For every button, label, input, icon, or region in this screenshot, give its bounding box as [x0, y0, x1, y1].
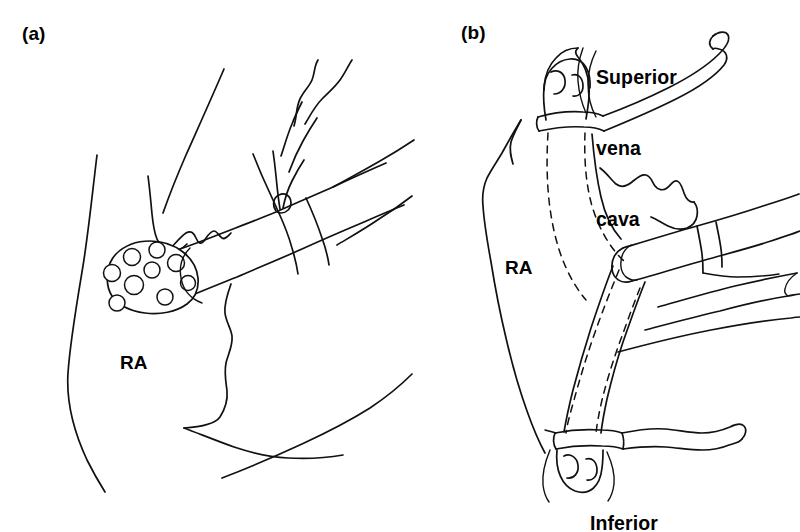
ra-wall-notch-b	[510, 120, 521, 164]
ivc-label-line-1: Inferior	[590, 512, 684, 532]
ligature-band-left-a	[278, 211, 298, 274]
mid-cannula-tie-right-b	[716, 222, 722, 267]
svc-label-line-1: Superior	[596, 66, 677, 90]
bottom-oblique-b	[618, 317, 800, 352]
ra-dome-a	[163, 69, 224, 213]
superior-vena-cava-label: Superior vena cava	[596, 18, 677, 280]
oblique-vessel-lower-a	[337, 196, 412, 245]
ivc-wall-join-b	[545, 430, 556, 433]
ivc-leader-left-b	[543, 450, 550, 502]
svc-lumen-left-b	[551, 71, 565, 94]
ivc-snare-right-cap-b	[622, 433, 624, 449]
patch-hole-8	[109, 295, 125, 311]
panel-b-letter: (b)	[461, 21, 486, 44]
lower-right-vessel-upper-b	[658, 273, 797, 307]
patch-hole-1	[124, 249, 141, 266]
patch-hole-3	[104, 265, 121, 282]
lower-right-vessel-cap-b	[785, 273, 797, 296]
panel-a-letter: (a)	[22, 22, 46, 45]
svc-label-line-3: cava	[596, 208, 677, 232]
ivc-snare-left-cap-b	[554, 433, 556, 449]
mid-cannula-tie-left-b	[697, 226, 703, 273]
vein-branch-1-a	[294, 60, 318, 126]
lower-oblique-a	[222, 374, 412, 478]
svc-snare-left-cap-b	[537, 117, 539, 131]
vein-branch-2-a	[305, 60, 352, 124]
cannula-lower-edge-a	[168, 205, 404, 305]
svc-cannula-dashed-left-b	[547, 133, 586, 300]
ivc-right-wall-b	[601, 282, 645, 433]
svc-snare-bottom-b	[539, 127, 604, 131]
ivc-lumen-left-b	[564, 455, 578, 478]
ivc-snare-bottom-b	[556, 446, 623, 449]
ligature-band-right-a	[306, 198, 329, 265]
ivc-tourniquet-upper-b	[622, 424, 746, 439]
ra-lateral-wall-b	[483, 120, 545, 453]
suture-knot-a	[274, 194, 291, 213]
av-groove-a	[184, 428, 343, 458]
mid-tie-tail-b	[703, 273, 779, 277]
illustration-canvas	[0, 0, 800, 532]
inferior-vena-cava-label: Inferior vena cava	[590, 464, 684, 532]
svc-label-line-2: vena	[596, 137, 677, 161]
lower-right-vessel-lower-b	[645, 294, 800, 330]
oblique-vessel-upper-a	[333, 140, 414, 187]
panel-a-drawing	[68, 60, 414, 492]
figure-root: (a) (b) RA RA Superior vena cava Inferio…	[0, 0, 800, 532]
patch-hole-5	[144, 262, 160, 278]
patch-hole-7	[157, 289, 173, 305]
svc-tourniquet-tip-b	[710, 36, 713, 49]
ivc-cannula-dashed-left-b	[566, 270, 619, 433]
right-atrium-label-a: RA	[120, 351, 148, 374]
atrial-appendage-a	[148, 176, 187, 251]
right-atrium-label-b: RA	[505, 256, 533, 279]
patch-hole-4	[125, 276, 144, 295]
ivc-tourniquet-lower-b	[623, 439, 742, 450]
ra-lateral-wall-a	[68, 155, 105, 492]
ra-medial-wall-a	[184, 284, 232, 428]
patch-hole-2	[149, 242, 165, 258]
